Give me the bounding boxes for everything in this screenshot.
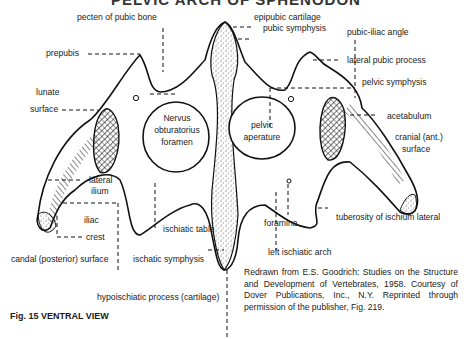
- label-pelvic: pelvic: [232, 120, 292, 130]
- label-foramina: foramina: [264, 218, 297, 228]
- label-ischiatic-table: ischiatic table: [163, 224, 215, 234]
- label-cranial-ant: cranial (ant.): [395, 132, 443, 142]
- label-obturatorius: obturatorius: [150, 125, 204, 135]
- label-pubic-iliac-angle: pubic-iliac angle: [347, 27, 409, 37]
- label-acetabulum: acetabulum: [387, 111, 431, 121]
- label-candal-posterior-surface: candal (posterior) surface: [11, 254, 108, 264]
- label-aperature: aperature: [232, 132, 292, 142]
- label-crest: crest: [86, 232, 105, 242]
- credit-text: Redrawn from E.S. Goodrich: Studies on t…: [244, 267, 458, 313]
- label-pubic-symphysis: pubic symphysis: [263, 23, 326, 33]
- label-foramen: foramen: [150, 137, 204, 147]
- label-left-ischiatic-arch: left ischiatic arch: [268, 247, 332, 257]
- label-lunate: lunate: [36, 87, 59, 97]
- pelvic-arch-diagram: PELVIC ARCH OF SPHENODON: [0, 0, 472, 339]
- label-nervus: Nervus: [150, 113, 204, 123]
- label-surface-lunate: surface: [30, 104, 58, 114]
- label-ilium: ilium: [91, 186, 109, 196]
- label-pecten-of-pubic-bone: pecten of pubic bone: [77, 12, 157, 22]
- label-surface-cranial: surface: [402, 144, 430, 154]
- label-lateral: lateral: [89, 175, 112, 185]
- label-hypoischiatic-process: hypoischiatic process (cartilage): [97, 292, 219, 302]
- label-lateral-pubic-process: lateral pubic process: [347, 55, 426, 65]
- label-pelvic-symphysis: pelvic symphysis: [362, 77, 426, 87]
- label-epipubic-cartilage: epipubic cartilage: [254, 12, 321, 22]
- label-ischatic-symphysis: ischatic symphysis: [133, 254, 204, 264]
- label-prepubis: prepubis: [46, 48, 79, 58]
- label-iliac: iliac: [84, 215, 99, 225]
- label-tuberosity-of-ischium-lateral: tuberosity of ischium lateral: [336, 212, 440, 222]
- figure-caption: Fig. 15 VENTRAL VIEW: [10, 311, 109, 321]
